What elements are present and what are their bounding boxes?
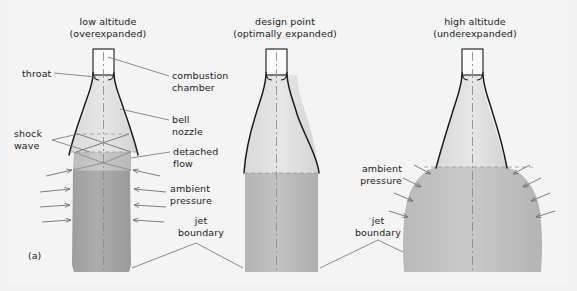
- label-detached-flow-line1: detached: [173, 146, 218, 158]
- panel-title-low-altitude: low altitude (overexpanded): [48, 16, 168, 39]
- label-shock-wave: shock wave: [14, 128, 42, 151]
- figure-label: (a): [28, 250, 41, 261]
- label-shock-wave-line2: wave: [14, 140, 42, 152]
- label-combustion-chamber-line1: combustion: [172, 70, 229, 82]
- label-detached-flow-line2: flow: [173, 158, 218, 170]
- leader-jet-boundary-left: [132, 243, 243, 268]
- ambient-pressure-arrows-low-right: [133, 170, 166, 222]
- label-throat: throat: [22, 68, 51, 80]
- panel-title-high-altitude-line2: (underexpanded): [415, 28, 535, 40]
- nozzle-group-high-altitude: [389, 49, 555, 272]
- label-jet-boundary-mid-line2: boundary: [343, 227, 413, 239]
- label-shock-wave-line1: shock: [14, 128, 42, 140]
- panel-title-design-point-line2: (optimally expanded): [220, 28, 350, 40]
- panel-title-high-altitude: high altitude (underexpanded): [415, 16, 535, 39]
- nozzle-group-design-point: [244, 49, 319, 272]
- label-ambient-pressure-left: ambient pressure: [170, 183, 212, 206]
- bell-nozzle-interior-mid: [244, 75, 319, 173]
- panel-title-low-altitude-line2: (overexpanded): [48, 28, 168, 40]
- plume-low-altitude: [72, 170, 131, 272]
- label-combustion-chamber: combustion chamber: [172, 70, 229, 93]
- ambient-pressure-arrows-low-left: [40, 170, 72, 222]
- label-detached-flow: detached flow: [173, 146, 218, 169]
- label-jet-boundary-left-line1: jet: [166, 215, 236, 227]
- label-ambient-pressure-left-line1: ambient: [170, 183, 212, 195]
- label-ambient-pressure-right-line2: pressure: [330, 175, 402, 187]
- label-ambient-pressure-right-line1: ambient: [330, 163, 402, 175]
- label-ambient-pressure-right: ambient pressure: [330, 163, 402, 186]
- panel-title-design-point-line1: design point: [220, 16, 350, 28]
- label-bell-nozzle-line2: nozzle: [172, 126, 203, 138]
- label-jet-boundary-left: jet boundary: [166, 215, 236, 238]
- label-combustion-chamber-line2: chamber: [172, 82, 229, 94]
- figure-canvas: low altitude (overexpanded) design point…: [0, 0, 577, 291]
- panel-title-low-altitude-line1: low altitude: [48, 16, 168, 28]
- panel-title-design-point: design point (optimally expanded): [220, 16, 350, 39]
- label-bell-nozzle: bell nozzle: [172, 114, 203, 137]
- leader-throat: [54, 73, 96, 77]
- label-bell-nozzle-line1: bell: [172, 114, 203, 126]
- panel-title-high-altitude-line1: high altitude: [415, 16, 535, 28]
- leader-combustion-chamber: [108, 57, 169, 76]
- label-jet-boundary-mid: jet boundary: [343, 215, 413, 238]
- label-jet-boundary-left-line2: boundary: [166, 227, 236, 239]
- plume-design-point: [245, 173, 318, 272]
- label-jet-boundary-mid-line1: jet: [343, 215, 413, 227]
- nozzle-diagram-artwork: [0, 0, 577, 291]
- nozzle-group-low-altitude: [40, 49, 166, 272]
- label-ambient-pressure-left-line2: pressure: [170, 195, 212, 207]
